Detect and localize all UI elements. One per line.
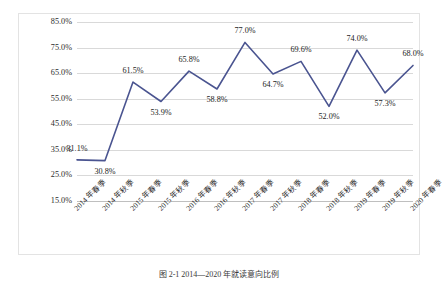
data-point-label: 64.7% xyxy=(262,81,283,89)
chart-frame: 85.0%75.0%65.0%55.0%45.0%35.0%25.0%15.0%… xyxy=(18,13,420,255)
plot-area: 85.0%75.0%65.0%55.0%45.0%35.0%25.0%15.0%… xyxy=(77,22,413,201)
figure-caption: 图 2-1 2014—2020 年就读意向比例 xyxy=(0,268,438,281)
data-point-label: 68.0% xyxy=(402,50,423,58)
line-series xyxy=(77,22,413,201)
data-point-label: 30.8% xyxy=(94,167,115,175)
data-point-label: 61.5% xyxy=(122,67,143,75)
y-axis-tick-label: 45.0% xyxy=(51,120,72,128)
data-point-label: 77.0% xyxy=(234,27,255,35)
data-point-label: 57.3% xyxy=(374,100,395,108)
y-axis-tick-label: 15.0% xyxy=(51,197,72,205)
data-point-label: 69.6% xyxy=(290,46,311,54)
series-polyline xyxy=(77,42,413,160)
y-axis-tick-label: 65.0% xyxy=(51,69,72,77)
data-point-label: 74.0% xyxy=(346,35,367,43)
data-point-label: 65.8% xyxy=(178,56,199,64)
y-axis-tick-label: 75.0% xyxy=(51,43,72,51)
data-point-label: 53.9% xyxy=(150,108,171,116)
y-axis-tick-label: 55.0% xyxy=(51,95,72,103)
y-axis-tick-label: 25.0% xyxy=(51,171,72,179)
x-axis-tick-labels: 2014 年春季2014 年秋季2015 年春季2015 年秋季2016 年春季… xyxy=(77,207,413,267)
data-point-label: 31.1% xyxy=(66,145,87,153)
data-point-label: 52.0% xyxy=(318,113,339,121)
data-point-label: 58.8% xyxy=(206,96,227,104)
y-axis-tick-label: 85.0% xyxy=(51,18,72,26)
